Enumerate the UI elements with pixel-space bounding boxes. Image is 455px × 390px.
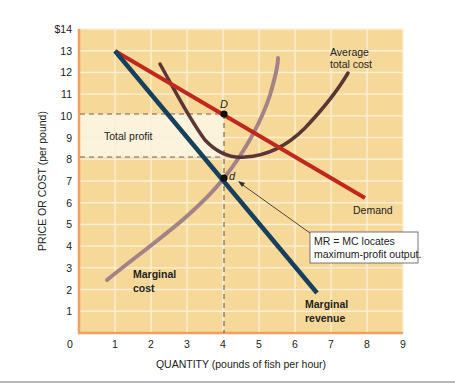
mr-label-line2: revenue [305,312,345,324]
x-tick-label: 0 [67,338,73,350]
y-tick-label: 11 [61,88,72,100]
x-tick-label: 4 [220,338,226,350]
x-tick-label: 2 [148,338,154,350]
mc-label-line1: Marginal [133,268,176,280]
bottom-divider [0,381,455,383]
profit-maximization-chart: D d MR = MC locates maximum-profit outpu… [0,0,455,390]
y-tick-label: 5 [66,218,72,230]
point-d-label: d [229,170,236,182]
x-tick-label: 7 [328,338,334,350]
point-D [220,110,227,117]
y-tick-label: 6 [66,197,72,209]
x-tick-label: 6 [292,338,298,350]
point-D-label: D [220,98,228,110]
y-tick-label: 8 [66,153,72,165]
x-tick-label: 8 [364,338,370,350]
y-tick-label: 9 [66,132,72,144]
mr-label-line1: Marginal [305,298,348,310]
x-tick-label: 1 [112,338,118,350]
x-tick-label: 5 [256,338,262,350]
y-tick-label: 7 [66,175,72,187]
y-tick-label: 12 [60,66,72,78]
y-tick-labels: 12345678910111213$14 [54,23,72,317]
y-tick-label: $14 [54,23,72,35]
demand-label: Demand [353,204,393,216]
y-tick-label: 2 [66,284,72,296]
annotation-text-line2: maximum-profit output. [314,248,421,260]
y-tick-label: 13 [60,45,72,57]
y-tick-label: 10 [60,110,72,122]
x-tick-label: 9 [400,338,406,350]
y-tick-label: 3 [66,262,72,274]
x-tick-label: 3 [184,338,190,350]
y-tick-label: 1 [66,305,72,317]
y-tick-label: 4 [66,240,72,252]
atc-label-line2: total cost [330,58,372,70]
x-tick-labels: 0123456789 [67,338,406,350]
point-d [220,174,227,181]
total-profit-label: Total profit [104,130,153,142]
mc-label-line2: cost [133,282,155,294]
atc-label-line1: Average [330,46,369,58]
x-axis-title: QUANTITY (pounds of fish per hour) [156,358,326,370]
y-axis-title: PRICE OR COST (per pound) [36,111,48,251]
annotation-text-line1: MR = MC locates [314,235,395,247]
